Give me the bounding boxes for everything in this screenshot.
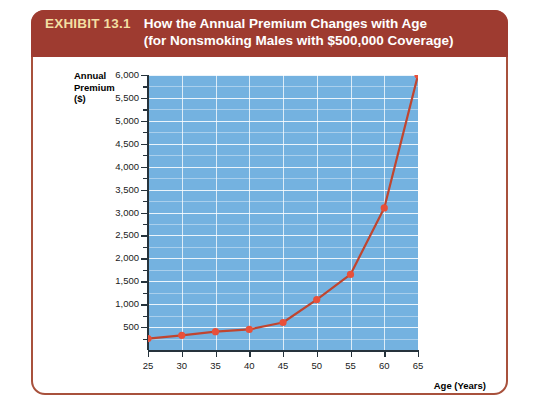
exhibit-number-label: EXHIBIT 13.1 xyxy=(45,15,131,31)
data-point-marker: 30: 320 xyxy=(178,332,185,339)
premium-series: 25: 25030: 32035: 40040: 45045: 60050: 1… xyxy=(148,75,418,350)
data-point-marker: 25: 250 xyxy=(148,335,152,342)
x-axis-tick-label: 50 xyxy=(302,360,332,371)
x-axis-tick xyxy=(249,350,250,357)
x-axis-tick xyxy=(384,350,385,357)
x-axis-tick-label: 60 xyxy=(369,360,399,371)
y-axis-tick xyxy=(141,75,148,76)
y-axis-tick-label: 1,500 xyxy=(93,275,139,286)
chart-area: Annual Premium ($) 5001,0001,5002,0002,5… xyxy=(31,57,508,395)
y-axis-tick-label: 3,500 xyxy=(93,184,139,195)
exhibit-title-line-1: How the Annual Premium Changes with Age xyxy=(144,16,427,31)
x-axis-tick xyxy=(283,350,284,357)
y-axis-tick-label: 4,500 xyxy=(93,138,139,149)
y-axis-tick xyxy=(141,327,148,328)
y-axis-tick xyxy=(141,281,148,282)
exhibit-header: EXHIBIT 13.1 How the Annual Premium Chan… xyxy=(31,10,508,57)
y-axis-tick xyxy=(141,121,148,122)
x-axis-tick-label: 25 xyxy=(133,360,163,371)
x-axis-tick xyxy=(418,350,419,357)
y-axis-tick-label: 4,000 xyxy=(93,161,139,172)
y-axis-tick xyxy=(141,304,148,305)
x-axis-tick-label: 35 xyxy=(201,360,231,371)
x-axis-tick xyxy=(317,350,318,357)
y-axis-tick xyxy=(141,167,148,168)
y-axis-tick xyxy=(141,144,148,145)
x-axis-tick-label: 45 xyxy=(268,360,298,371)
data-point-marker: 65: 6000 xyxy=(414,75,418,79)
y-axis-tick-label: 5,000 xyxy=(93,115,139,126)
y-axis-tick-label: 500 xyxy=(93,321,139,332)
x-axis-tick-label: 55 xyxy=(336,360,366,371)
data-point-marker: 55: 1650 xyxy=(347,271,354,278)
x-axis-tick-label: 40 xyxy=(234,360,264,371)
exhibit-title: How the Annual Premium Changes with Age … xyxy=(144,15,454,49)
x-axis-tick xyxy=(148,350,149,357)
y-axis-tick xyxy=(141,258,148,259)
data-point-marker: 35: 400 xyxy=(212,328,219,335)
y-axis-tick xyxy=(141,213,148,214)
y-axis-tick xyxy=(141,235,148,236)
y-axis-tick-label: 3,000 xyxy=(93,207,139,218)
data-point-marker: 60: 3100 xyxy=(381,204,388,211)
x-axis-title: Age (Years) xyxy=(434,380,486,391)
y-axis-tick-label: 2,000 xyxy=(93,252,139,263)
data-point-marker: 50: 1100 xyxy=(313,296,320,303)
data-point-marker: 45: 600 xyxy=(279,319,286,326)
y-axis-tick-label: 6,000 xyxy=(93,69,139,80)
y-axis-tick-label: 5,500 xyxy=(93,92,139,103)
y-axis-tick-label: 1,000 xyxy=(93,298,139,309)
y-axis-tick-label: 2,500 xyxy=(93,229,139,240)
x-axis-tick xyxy=(182,350,183,357)
exhibit-title-line-2: (for Nonsmoking Males with $500,000 Cove… xyxy=(144,33,454,48)
gridline-vertical xyxy=(418,75,419,350)
y-axis-tick xyxy=(141,190,148,191)
x-axis-tick xyxy=(216,350,217,357)
x-axis-tick xyxy=(351,350,352,357)
x-axis-tick-label: 30 xyxy=(167,360,197,371)
y-axis-tick xyxy=(141,98,148,99)
x-axis-tick-label: 65 xyxy=(403,360,433,371)
premium-line xyxy=(148,75,418,339)
data-point-marker: 40: 450 xyxy=(246,326,253,333)
